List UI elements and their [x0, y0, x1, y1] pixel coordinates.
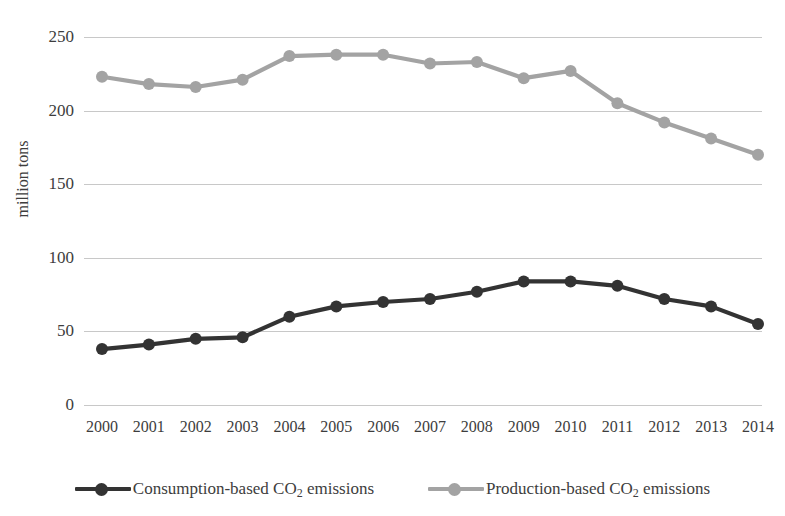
x-tick-label: 2005 — [313, 419, 359, 435]
plot-area — [84, 37, 762, 405]
x-tick-label: 2010 — [548, 419, 594, 435]
legend-label-consumption: Consumption-based CO2 emissions — [133, 479, 374, 499]
x-tick-label: 2013 — [688, 419, 734, 435]
legend-marker-production-icon — [428, 480, 484, 498]
legend-label-production: Production-based CO2 emissions — [486, 479, 710, 499]
gridline — [84, 258, 762, 259]
x-tick-label: 2011 — [594, 419, 640, 435]
chart-title — [84, 0, 704, 4]
x-tick-label: 2003 — [220, 419, 266, 435]
x-tick-label: 2008 — [454, 419, 500, 435]
gridline — [84, 111, 762, 112]
x-tick-label: 2007 — [407, 419, 453, 435]
x-tick-label: 2014 — [735, 419, 781, 435]
gridline — [84, 331, 762, 332]
x-tick-label: 2006 — [360, 419, 406, 435]
chart-container: million tons 050100150200250 20002001200… — [0, 0, 785, 516]
x-tick-label: 2002 — [173, 419, 219, 435]
gridline — [84, 405, 762, 406]
x-tick-label: 2001 — [126, 419, 172, 435]
x-tick-label: 2009 — [501, 419, 547, 435]
y-tick-label: 50 — [14, 322, 74, 339]
legend-item-production[interactable]: Production-based CO2 emissions — [428, 479, 710, 499]
legend-item-consumption[interactable]: Consumption-based CO2 emissions — [75, 479, 374, 499]
legend-marker-consumption-icon — [75, 480, 131, 498]
y-tick-label: 100 — [14, 249, 74, 266]
y-tick-label: 250 — [14, 28, 74, 45]
x-tick-label: 2000 — [79, 419, 125, 435]
y-tick-label: 150 — [14, 175, 74, 192]
y-tick-label: 0 — [14, 396, 74, 413]
x-tick-label: 2004 — [266, 419, 312, 435]
gridline — [84, 37, 762, 38]
chart-legend: Consumption-based CO2 emissions Producti… — [0, 465, 785, 513]
gridline — [84, 184, 762, 185]
y-tick-label: 200 — [14, 102, 74, 119]
x-tick-label: 2012 — [641, 419, 687, 435]
